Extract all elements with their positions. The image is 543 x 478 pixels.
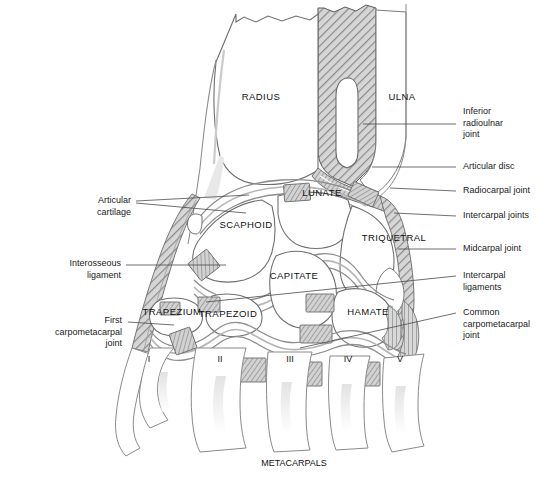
label-midcarpal-joint: Midcarpal joint: [463, 243, 521, 255]
bone-label-trapezium: TRAPEZIUM: [143, 306, 202, 317]
bone-label-triquetral: TRIQUETRAL: [362, 232, 427, 243]
label-line: ligament: [0, 270, 121, 282]
label-radiocarpal-joint: Radiocarpal joint: [463, 185, 530, 197]
label-first-carpometacarpal-joint: First carpometacarpal joint: [0, 315, 122, 350]
bone-label-capitate: CAPITATE: [270, 270, 319, 281]
label-line: Intercarpal: [463, 270, 506, 282]
label-line: Midcarpal joint: [463, 243, 521, 255]
scaphoid-radial-notch: [187, 214, 202, 234]
label-line: Common: [463, 307, 530, 319]
label-line: ligaments: [463, 282, 506, 294]
label-articular-disc: Articular disc: [463, 161, 515, 173]
metacarpal-numeral-2: II: [217, 354, 222, 364]
metacarpal-numeral-5: V: [397, 354, 403, 364]
label-line: cartilage: [0, 207, 131, 219]
bone-label-radius: RADIUS: [242, 91, 281, 102]
label-inferior-radioulnar-joint: Inferior radioulnar joint: [463, 106, 503, 141]
bone-label-lunate: LUNATE: [302, 187, 341, 198]
label-line: carpometacarpal: [463, 319, 530, 331]
label-line: joint: [463, 330, 530, 342]
label-common-carpometacarpal-joint: Common carpometacarpal joint: [463, 307, 530, 342]
bone-label-scaphoid: SCAPHOID: [219, 219, 272, 230]
anatomy-illustration: RADIUS ULNA LUNATE SCAPHOID TRIQUETRAL C…: [0, 0, 543, 478]
metacarpal-bones: [139, 348, 424, 452]
bone-label-hamate: HAMATE: [347, 306, 389, 317]
ligament-capitate-hamate: [306, 294, 334, 312]
metacarpal-I-shadow: [159, 372, 170, 412]
label-articular-cartilage: Articular cartilage: [0, 195, 131, 218]
label-line: joint: [463, 129, 503, 141]
bone-label-trapezoid: TRAPEZOID: [199, 308, 257, 319]
label-line: First: [0, 315, 122, 327]
leader-radiocarpal-joint: [390, 188, 456, 191]
metacarpal-numeral-1: I: [148, 354, 151, 364]
label-line: joint: [0, 338, 122, 350]
label-line: carpometacarpal: [0, 327, 122, 339]
wrist-anatomy-figure: RADIUS ULNA LUNATE SCAPHOID TRIQUETRAL C…: [0, 0, 543, 478]
metacarpal-numeral-4: IV: [344, 354, 353, 364]
label-line: Inferior: [463, 106, 503, 118]
label-line: Articular: [0, 195, 131, 207]
leader-intercarpal-joints: [394, 213, 456, 216]
metacarpal-numeral-3: III: [286, 354, 294, 364]
label-line: radioulnar: [463, 118, 503, 130]
label-interosseous-ligament: Interosseous ligament: [0, 258, 121, 281]
ulna-styloid-notch: [336, 78, 358, 168]
ligament-capitate-mc3: [300, 325, 332, 343]
label-intercarpal-joints: Intercarpal joints: [463, 210, 529, 222]
label-line: Interosseous: [0, 258, 121, 270]
metacarpals-caption: METACARPALS: [261, 458, 327, 468]
label-line: Intercarpal joints: [463, 210, 529, 222]
label-line: Radiocarpal joint: [463, 185, 530, 197]
label-intercarpal-ligaments: Intercarpal ligaments: [463, 270, 506, 293]
label-line: Articular disc: [463, 161, 515, 173]
bone-label-ulna: ULNA: [388, 91, 415, 102]
